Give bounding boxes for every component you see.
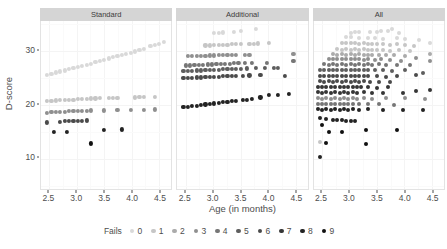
- grid-line-horizontal-minor: [177, 24, 307, 25]
- data-point: [364, 142, 368, 146]
- legend-key-icon: [258, 229, 263, 234]
- data-point: [331, 57, 335, 61]
- data-point: [366, 85, 370, 89]
- data-point: [331, 62, 335, 66]
- data-point: [247, 53, 251, 57]
- data-point: [428, 59, 432, 63]
- data-point: [379, 29, 383, 33]
- legend-item[interactable]: 4: [215, 226, 227, 236]
- data-point: [373, 68, 377, 72]
- data-point: [346, 85, 350, 89]
- legend-key-icon: [322, 229, 327, 234]
- data-point: [397, 48, 401, 52]
- data-point: [344, 57, 348, 61]
- data-point: [340, 118, 344, 122]
- data-point: [346, 91, 350, 95]
- x-tick-label: 2.5: [179, 193, 191, 203]
- data-point: [353, 57, 357, 61]
- data-point: [403, 54, 407, 58]
- grid-line-horizontal-minor: [177, 132, 307, 133]
- data-point: [318, 68, 322, 72]
- data-point: [331, 80, 335, 84]
- legend-item[interactable]: 7: [279, 226, 291, 236]
- data-point: [349, 35, 353, 39]
- data-point: [335, 63, 339, 67]
- x-axis-title: Age (in months): [40, 203, 445, 214]
- data-point: [351, 102, 355, 106]
- data-point: [342, 85, 346, 89]
- legend-label: 0: [137, 226, 142, 236]
- chart-root: D-score 102030 StandardAdditionalAll 2.5…: [0, 0, 447, 249]
- data-point: [258, 73, 262, 77]
- data-point: [340, 80, 344, 84]
- data-point: [333, 85, 337, 89]
- legend-item[interactable]: 2: [172, 226, 184, 236]
- data-point: [390, 69, 394, 73]
- data-point: [322, 74, 326, 78]
- data-point: [322, 80, 326, 84]
- data-point: [263, 66, 267, 70]
- data-point: [340, 52, 344, 56]
- data-point: [344, 79, 348, 83]
- data-point: [338, 108, 342, 112]
- legend-item[interactable]: 0: [130, 226, 142, 236]
- data-point: [390, 27, 394, 31]
- data-point: [342, 102, 346, 106]
- data-point: [344, 47, 348, 51]
- data-point: [245, 66, 249, 70]
- grid-line-horizontal-minor: [41, 24, 171, 25]
- facet-panel: Standard: [40, 8, 172, 190]
- legend-item[interactable]: 8: [300, 226, 312, 236]
- data-point: [276, 93, 280, 97]
- data-point: [320, 85, 324, 89]
- legend-item[interactable]: 5: [236, 226, 248, 236]
- legend-key-icon: [172, 229, 177, 234]
- data-point: [349, 41, 353, 45]
- x-tick-label: 3.0: [207, 193, 219, 203]
- facet-strip-label: Additional: [176, 8, 308, 21]
- data-point: [366, 42, 370, 46]
- data-point: [349, 119, 353, 123]
- data-point: [370, 53, 374, 57]
- legend-key-icon: [130, 229, 135, 234]
- data-point: [318, 140, 322, 144]
- data-point: [349, 57, 353, 61]
- data-point: [353, 30, 357, 34]
- data-point: [234, 99, 238, 103]
- data-point: [153, 95, 157, 99]
- data-point: [408, 63, 412, 67]
- data-point: [357, 36, 361, 40]
- data-point: [362, 53, 366, 57]
- legend-label: 6: [265, 226, 270, 236]
- data-point: [349, 52, 353, 56]
- legend-key-icon: [236, 229, 241, 234]
- data-point: [324, 85, 328, 89]
- legend-item[interactable]: 6: [258, 226, 270, 236]
- data-point: [395, 42, 399, 46]
- legend-key-icon: [279, 229, 284, 234]
- legend-item[interactable]: 3: [194, 226, 206, 236]
- data-point: [342, 90, 346, 94]
- y-tick-label: 20: [26, 99, 35, 109]
- data-point: [340, 62, 344, 66]
- data-point: [375, 42, 379, 46]
- data-point: [401, 108, 405, 112]
- data-point: [234, 53, 238, 57]
- legend-item[interactable]: 1: [151, 226, 163, 236]
- data-point: [335, 74, 339, 78]
- data-point: [346, 102, 350, 106]
- data-point: [327, 68, 331, 72]
- x-tick-label: 4.0: [263, 193, 275, 203]
- data-point: [331, 74, 335, 78]
- facet-panels: StandardAdditionalAll: [40, 8, 445, 190]
- data-point: [392, 103, 396, 107]
- data-point: [333, 96, 337, 100]
- legend-item[interactable]: 9: [322, 226, 334, 236]
- x-axis: 2.53.03.54.04.52.53.03.54.04.52.53.03.54…: [40, 190, 445, 202]
- data-point: [324, 141, 328, 145]
- data-point: [238, 42, 242, 46]
- grid-line-horizontal-minor: [41, 132, 171, 133]
- data-point: [377, 80, 381, 84]
- data-point: [377, 102, 381, 106]
- legend-title: Fails: [104, 226, 122, 236]
